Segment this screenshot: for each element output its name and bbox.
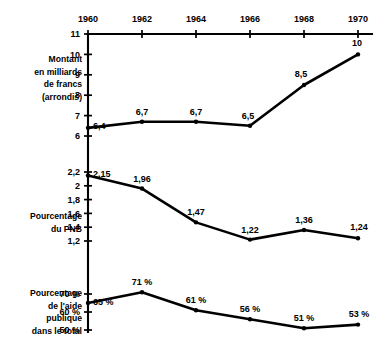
data-point-pourcentage-pnb-1962 xyxy=(140,186,144,190)
data-point-pourcentage-aide-publique-1966 xyxy=(248,317,252,321)
data-point-pourcentage-pnb-1968 xyxy=(302,228,306,232)
value-label-montant-1964: 6,7 xyxy=(190,107,203,117)
y-tick-label-pourcentage-pnb-1: 2 xyxy=(75,181,80,191)
year-tick-label-1966: 1966 xyxy=(240,14,260,24)
value-label-pourcentage-pnb-1966: 1,22 xyxy=(241,225,259,235)
data-point-pourcentage-pnb-1966 xyxy=(248,237,252,241)
value-label-montant-1960: 6,4 xyxy=(93,121,106,131)
y-tick-label-pourcentage-aide-publique-2: 50 % xyxy=(59,325,80,335)
y-tick-label-montant-1: 10 xyxy=(70,50,80,60)
value-label-pourcentage-pnb-1964: 1,47 xyxy=(187,207,205,217)
year-tick-label-1968: 1968 xyxy=(294,14,314,24)
data-point-montant-1964 xyxy=(194,120,198,124)
data-point-pourcentage-pnb-1964 xyxy=(194,220,198,224)
data-point-pourcentage-aide-publique-1962 xyxy=(140,290,144,294)
year-tick-label-1962: 1962 xyxy=(132,14,152,24)
y-tick-label-pourcentage-aide-publique-0: 70 % xyxy=(59,289,80,299)
data-point-montant-1960 xyxy=(86,126,90,130)
value-label-pourcentage-aide-publique-1960: 65 % xyxy=(93,297,114,307)
value-label-montant-1962: 6,7 xyxy=(136,107,149,117)
value-label-montant-1970: 10 xyxy=(352,38,362,48)
y-tick-label-montant-5: 6 xyxy=(75,131,80,141)
value-label-pourcentage-pnb-1960: 2,15 xyxy=(93,169,111,179)
value-label-pourcentage-aide-publique-1962: 71 % xyxy=(132,277,153,287)
caption-line-montant-2: de francs xyxy=(44,79,82,89)
y-tick-label-montant-4: 7 xyxy=(75,111,80,121)
data-point-pourcentage-pnb-1960 xyxy=(86,173,90,177)
year-tick-label-1970: 1970 xyxy=(348,14,368,24)
value-label-pourcentage-aide-publique-1964: 61 % xyxy=(186,295,207,305)
y-tick-label-pourcentage-pnb-3: 1,6 xyxy=(67,209,80,219)
y-tick-label-montant-3: 8 xyxy=(75,90,80,100)
data-point-montant-1966 xyxy=(248,124,252,128)
value-label-montant-1968: 8,5 xyxy=(295,69,308,79)
year-tick-label-1964: 1964 xyxy=(186,14,206,24)
chart-canvas: 196019621964196619681970 Montanten milli… xyxy=(0,0,376,347)
y-tick-label-montant-0: 11 xyxy=(70,29,80,39)
data-point-montant-1970 xyxy=(356,52,360,56)
data-point-pourcentage-aide-publique-1968 xyxy=(302,326,306,330)
data-point-pourcentage-aide-publique-1964 xyxy=(194,308,198,312)
y-tick-label-pourcentage-pnb-5: 1,2 xyxy=(67,236,80,246)
value-label-montant-1966: 6,5 xyxy=(242,111,255,121)
data-point-montant-1962 xyxy=(140,120,144,124)
data-point-montant-1968 xyxy=(302,83,306,87)
value-label-pourcentage-aide-publique-1970: 53 % xyxy=(349,309,370,319)
data-point-pourcentage-aide-publique-1960 xyxy=(86,301,90,305)
value-label-pourcentage-pnb-1970: 1,24 xyxy=(350,222,368,232)
y-tick-label-pourcentage-pnb-0: 2,2 xyxy=(67,167,80,177)
data-point-pourcentage-aide-publique-1970 xyxy=(356,322,360,326)
value-label-pourcentage-aide-publique-1966: 56 % xyxy=(240,304,261,314)
data-point-pourcentage-pnb-1970 xyxy=(356,236,360,240)
y-tick-label-montant-2: 9 xyxy=(75,70,80,80)
year-tick-label-1960: 1960 xyxy=(78,14,98,24)
y-tick-label-pourcentage-pnb-2: 1,8 xyxy=(67,195,80,205)
value-label-pourcentage-pnb-1962: 1,96 xyxy=(133,174,151,184)
value-label-pourcentage-pnb-1968: 1,36 xyxy=(295,215,313,225)
value-label-pourcentage-aide-publique-1968: 51 % xyxy=(294,313,315,323)
y-tick-label-pourcentage-aide-publique-1: 60 % xyxy=(59,307,80,317)
y-tick-label-pourcentage-pnb-4: 1,4 xyxy=(67,222,80,232)
